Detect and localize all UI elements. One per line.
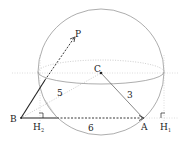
equator-back <box>38 60 164 72</box>
label-H1: H <box>160 122 168 132</box>
sphere-diagram: B A C P H 2 H 1 5 3 6 <box>0 0 184 150</box>
label-H1-sub: 1 <box>168 127 171 133</box>
segment-BP <box>45 38 74 80</box>
right-angle-H1 <box>161 113 165 118</box>
point-B <box>20 117 22 119</box>
length-CA: 3 <box>127 90 133 100</box>
label-H2-sub: 2 <box>41 127 44 133</box>
length-BC: 5 <box>57 88 63 98</box>
label-P: P <box>75 29 81 39</box>
label-B: B <box>10 114 17 124</box>
segment-B-sphere <box>21 80 45 118</box>
label-C: C <box>94 64 101 74</box>
label-H2: H <box>33 122 41 132</box>
right-angle-H2 <box>39 113 43 118</box>
length-BA: 6 <box>88 123 94 133</box>
segment-CA <box>101 73 143 118</box>
label-A: A <box>140 122 148 132</box>
segment-H2-aux <box>45 100 57 118</box>
